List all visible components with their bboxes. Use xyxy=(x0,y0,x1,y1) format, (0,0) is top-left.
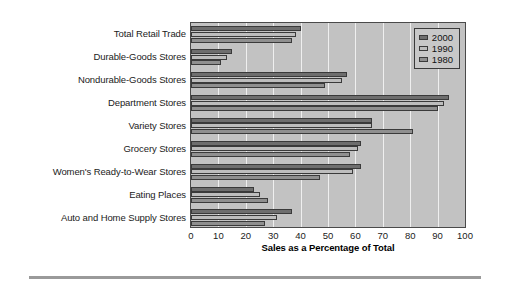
bar-group xyxy=(191,92,465,115)
bar-1980[interactable] xyxy=(191,198,268,203)
legend-swatch-2000-icon xyxy=(419,35,428,40)
bar-1990[interactable] xyxy=(191,123,372,128)
bar-1980[interactable] xyxy=(191,83,325,88)
bar-2000[interactable] xyxy=(191,26,301,31)
category-label: Women's Ready-to-Wear Stores xyxy=(53,165,186,176)
bar-group xyxy=(191,69,465,92)
bar-2000[interactable] xyxy=(191,49,232,54)
category-label: Variety Stores xyxy=(128,120,186,131)
legend-item-2000[interactable]: 2000 xyxy=(419,32,453,43)
category-label: Auto and Home Supply Stores xyxy=(61,211,186,222)
bar-group xyxy=(191,160,465,183)
category-label: Grocery Stores xyxy=(124,142,186,153)
bar-1990[interactable] xyxy=(191,55,227,60)
page-divider-rule xyxy=(29,276,481,279)
x-tick-90: 90 xyxy=(432,230,443,241)
bar-2000[interactable] xyxy=(191,187,254,192)
bar-2000[interactable] xyxy=(191,209,292,214)
bar-2000[interactable] xyxy=(191,141,361,146)
legend-item-1990[interactable]: 1990 xyxy=(419,43,453,54)
x-tick-40: 40 xyxy=(295,230,306,241)
category-label: Durable-Goods Stores xyxy=(93,51,186,62)
category-label: Nondurable-Goods Stores xyxy=(78,74,186,85)
x-tick-60: 60 xyxy=(350,230,361,241)
x-tick-100: 100 xyxy=(457,230,473,241)
category-axis-labels: Total Retail TradeDurable-Goods StoresNo… xyxy=(22,22,186,228)
bar-chart-figure: Total Retail TradeDurable-Goods StoresNo… xyxy=(22,20,484,248)
category-label: Total Retail Trade xyxy=(114,28,186,39)
legend-label: 1980 xyxy=(432,54,453,65)
bar-1990[interactable] xyxy=(191,146,358,151)
legend-swatch-1980-icon xyxy=(419,57,428,62)
plot-area: 200019901980 xyxy=(190,22,466,228)
plot-area-wrapper: 200019901980 xyxy=(190,22,466,228)
bar-2000[interactable] xyxy=(191,72,347,77)
chart-legend[interactable]: 200019901980 xyxy=(414,28,460,69)
x-tick-20: 20 xyxy=(241,230,252,241)
legend-label: 1990 xyxy=(432,43,453,54)
x-tick-50: 50 xyxy=(323,230,334,241)
x-axis-title: Sales as a Percentage of Total xyxy=(190,242,466,253)
bar-1980[interactable] xyxy=(191,152,350,157)
legend-label: 2000 xyxy=(432,32,453,43)
bar-1990[interactable] xyxy=(191,192,260,197)
bar-1990[interactable] xyxy=(191,78,342,83)
x-tick-80: 80 xyxy=(405,230,416,241)
category-label: Department Stores xyxy=(108,97,186,108)
bar-2000[interactable] xyxy=(191,118,372,123)
bar-1980[interactable] xyxy=(191,60,221,65)
bar-group xyxy=(191,206,465,228)
bar-1990[interactable] xyxy=(191,169,353,174)
gridline-100 xyxy=(465,23,466,227)
bar-1990[interactable] xyxy=(191,32,296,37)
legend-swatch-1990-icon xyxy=(419,46,428,51)
x-tick-30: 30 xyxy=(268,230,279,241)
bar-1980[interactable] xyxy=(191,221,265,226)
bar-1980[interactable] xyxy=(191,38,292,43)
bar-2000[interactable] xyxy=(191,164,361,169)
bar-group xyxy=(191,183,465,206)
bar-1980[interactable] xyxy=(191,175,320,180)
legend-item-1980[interactable]: 1980 xyxy=(419,54,453,65)
x-tick-0: 0 xyxy=(188,230,193,241)
category-label: Eating Places xyxy=(129,188,186,199)
x-tick-70: 70 xyxy=(378,230,389,241)
bar-1990[interactable] xyxy=(191,101,444,106)
bar-group xyxy=(191,137,465,160)
bar-2000[interactable] xyxy=(191,95,449,100)
x-tick-10: 10 xyxy=(213,230,224,241)
bar-1990[interactable] xyxy=(191,215,277,220)
bar-1980[interactable] xyxy=(191,129,413,134)
bar-group xyxy=(191,115,465,138)
bar-1980[interactable] xyxy=(191,106,438,111)
